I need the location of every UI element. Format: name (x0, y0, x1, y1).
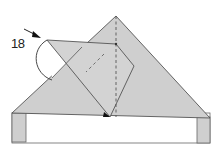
step-pointer-arrow (24, 29, 41, 38)
left-band-end (12, 113, 26, 142)
right-band-end (197, 117, 210, 143)
step-number: 18 (11, 36, 24, 51)
pointer-arrowhead-icon (32, 31, 41, 38)
fold-point (115, 43, 117, 45)
diagram-canvas (0, 0, 216, 152)
